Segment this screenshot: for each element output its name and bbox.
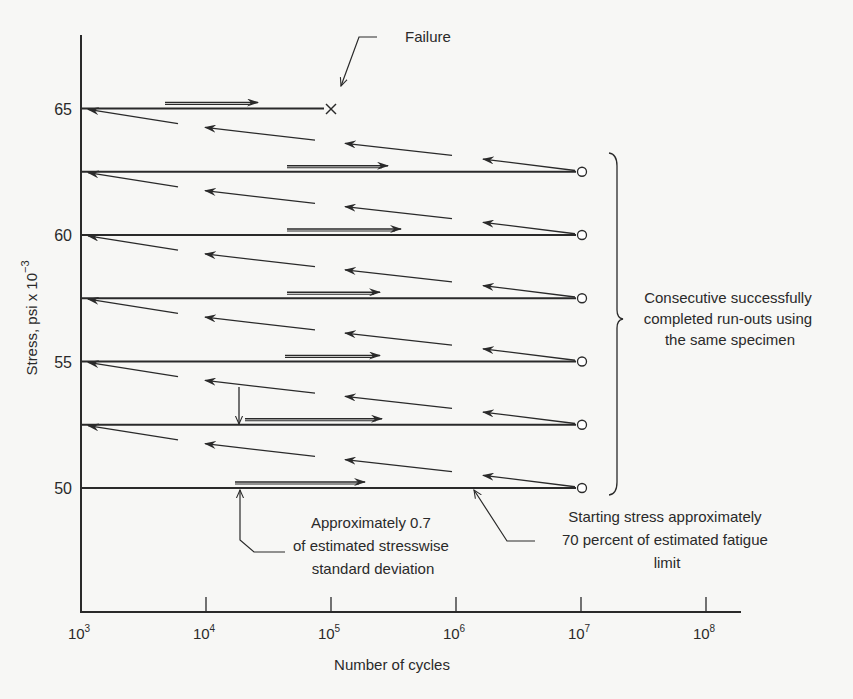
run-out-marker xyxy=(578,294,587,303)
return-arrow xyxy=(483,159,575,170)
return-arrow xyxy=(205,444,315,457)
y-axis-ticks: 50556065 xyxy=(54,101,72,498)
return-arrow xyxy=(345,333,452,345)
runouts-note: Consecutive successfully completed run-o… xyxy=(644,289,817,348)
return-arrow xyxy=(88,173,178,187)
run-out-marker xyxy=(578,357,587,366)
return-arrow xyxy=(205,254,315,267)
y-tick-label: 65 xyxy=(54,101,72,118)
return-arrow xyxy=(483,475,575,486)
return-arrow xyxy=(483,412,575,423)
x-tick-label: 103 xyxy=(68,623,91,642)
x-tick-label: 105 xyxy=(318,623,341,642)
failure-callout: Failure xyxy=(341,28,451,86)
y-axis-label: Stress, psi x 10−3 xyxy=(19,260,40,375)
start-stress-callout xyxy=(474,490,535,541)
return-arrow xyxy=(205,191,315,204)
runouts-brace xyxy=(609,153,623,495)
fatigue-staircase-chart: 103104105106107108 50556065 Number of cy… xyxy=(0,0,853,699)
return-arrow xyxy=(88,236,178,250)
start-stress-note: Starting stress approximately 70 percent… xyxy=(562,508,772,571)
x-tick-label: 106 xyxy=(443,623,466,642)
return-arrow xyxy=(345,396,452,408)
y-tick-label: 55 xyxy=(54,354,72,371)
return-arrow xyxy=(88,426,178,440)
return-arrow xyxy=(205,317,315,330)
x-tick-label: 107 xyxy=(568,623,591,642)
return-arrow xyxy=(88,109,178,123)
return-arrow xyxy=(483,349,575,360)
run-out-marker xyxy=(578,420,587,429)
return-arrow xyxy=(205,127,315,140)
return-arrow xyxy=(205,380,315,393)
return-arrow xyxy=(345,460,452,472)
return-arrow xyxy=(88,299,178,313)
return-arrow xyxy=(483,222,575,233)
run-out-marker xyxy=(578,167,587,176)
y-tick-label: 60 xyxy=(54,227,72,244)
y-tick-label: 50 xyxy=(54,480,72,497)
run-out-marker xyxy=(578,231,587,240)
x-tick-label: 108 xyxy=(693,623,716,642)
x-axis-ticks: 103104105106107108 xyxy=(68,597,716,642)
step-size-callout xyxy=(239,387,285,552)
return-arrow xyxy=(88,362,178,376)
return-arrow xyxy=(483,286,575,297)
x-axis-label: Number of cycles xyxy=(334,656,450,673)
return-arrow xyxy=(345,207,452,219)
step-arrows xyxy=(88,103,575,487)
failure-label: Failure xyxy=(405,28,451,45)
run-out-marker xyxy=(578,484,587,493)
return-arrow xyxy=(345,270,452,282)
step-size-note: Approximately 0.7 of estimated stresswis… xyxy=(293,514,453,577)
return-arrow xyxy=(345,143,452,155)
failure-marker xyxy=(326,104,336,114)
x-tick-label: 104 xyxy=(193,623,216,642)
